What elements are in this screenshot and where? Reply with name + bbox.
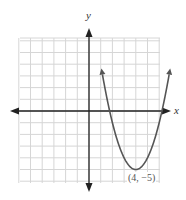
y-axis-up-arrow-icon <box>86 28 93 37</box>
x-axis-label: x <box>174 104 179 116</box>
x-axis <box>10 108 171 115</box>
y-axis-down-arrow-icon <box>86 183 93 192</box>
x-axis-right-arrow-icon <box>162 108 171 115</box>
x-axis-left-arrow-icon <box>10 108 19 115</box>
coordinate-plane <box>0 0 186 200</box>
y-axis-label: y <box>86 9 91 21</box>
curve-right-arrow-icon <box>166 69 172 75</box>
vertex-label: (4, −5) <box>127 172 156 183</box>
